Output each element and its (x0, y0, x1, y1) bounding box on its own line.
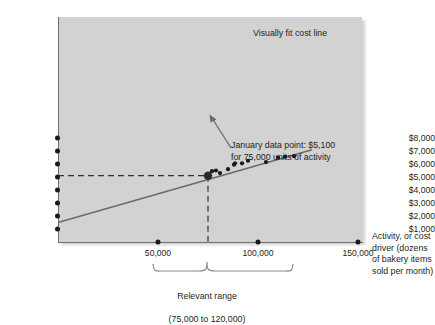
callout-arrow-shaft (212, 118, 231, 148)
relevant-range-detail: (75,000 to 120,000) (169, 314, 246, 324)
relevant-range-label: Relevant range (75,000 to 120,000) (132, 279, 282, 325)
scatter-point (226, 167, 230, 171)
relevant-range-brace (153, 262, 293, 271)
x-axis-label: Activity, or cost driver (dozens of bake… (372, 231, 434, 277)
january-data-point (204, 172, 212, 180)
relevant-range-title: Relevant range (177, 291, 237, 301)
scatter-point (218, 171, 222, 175)
callout-arrow-head (210, 115, 217, 123)
january-point-annotation: January data point: $5,100 for 75,000 un… (231, 140, 371, 163)
scatter-point (214, 168, 218, 172)
fit-line-label: Visually fit cost line (253, 28, 327, 40)
